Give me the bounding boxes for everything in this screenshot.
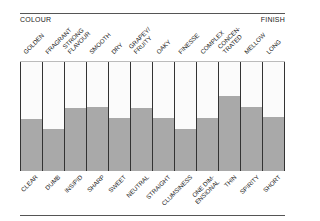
chart-column: [262, 62, 285, 171]
column-fill: [219, 96, 240, 171]
bottom-label: SWEET: [108, 174, 128, 194]
column-fill: [197, 118, 218, 171]
column-fill: [21, 119, 42, 171]
chart-column: [196, 62, 218, 171]
column-fill: [263, 117, 284, 172]
colour-heading: COLOUR: [20, 16, 51, 23]
chart-column: [64, 62, 86, 171]
top-label: SMOOTH: [89, 31, 113, 55]
chart-column: [42, 62, 64, 171]
column-fill: [175, 129, 196, 172]
column-fill: [241, 107, 262, 171]
column-fill: [153, 118, 174, 171]
top-label: FINESSE: [177, 32, 200, 55]
chart-column: [240, 62, 262, 171]
bottom-label: INSIPID: [63, 174, 83, 194]
chart-column: [108, 62, 130, 171]
chart-column: [20, 62, 42, 171]
chart-column: [174, 62, 196, 171]
column-fill: [65, 108, 86, 171]
chart-column: [130, 62, 152, 171]
column-fill: [109, 118, 130, 171]
profile-chart: [20, 61, 285, 171]
top-label: GOLDEN: [22, 32, 45, 55]
bottom-label: CLEAR: [20, 174, 39, 193]
column-fill: [131, 108, 152, 171]
chart-column: [218, 62, 240, 171]
finish-heading: FINISH: [261, 16, 285, 23]
bottom-rule: [20, 215, 285, 216]
top-label: MELLOW: [243, 31, 267, 55]
top-label: DRY: [111, 41, 125, 55]
top-rule: [20, 13, 285, 14]
bottom-label: ONE DIM- ENSIONAL: [190, 174, 221, 205]
top-label: GRAPEY/ FRUITY: [128, 26, 157, 55]
chart-column: [152, 62, 174, 171]
bottom-label: SPIRITY: [239, 174, 261, 196]
top-label: OAKY: [155, 38, 172, 55]
bottom-label: SHARP: [86, 174, 106, 194]
bottom-label: DUMB: [44, 174, 61, 191]
bottom-label: SHORT: [263, 174, 283, 194]
bottom-label: THIN: [224, 174, 239, 189]
top-label: LONG: [265, 38, 282, 55]
column-fill: [43, 129, 64, 172]
chart-column: [86, 62, 108, 171]
column-fill: [87, 107, 108, 171]
